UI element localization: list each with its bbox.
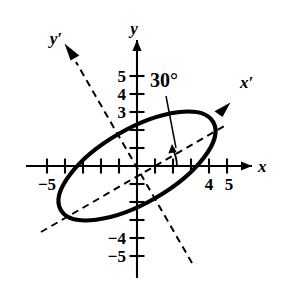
figure-canvas: x y x′ y′ 30° 5 4 3 −4 −5 −5 4 5 bbox=[0, 0, 287, 287]
x-prime-arrowhead bbox=[215, 103, 231, 117]
angle-label: 30° bbox=[150, 69, 178, 91]
x-axis-arrowhead bbox=[241, 161, 252, 170]
x-axis-group bbox=[26, 159, 252, 174]
y-prime-arrowhead bbox=[65, 44, 80, 61]
y-tick-label-4: 4 bbox=[118, 85, 127, 104]
angle-annotation-group bbox=[166, 96, 177, 166]
y-axis-arrowhead bbox=[132, 40, 141, 51]
y-tick-label-3: 3 bbox=[118, 103, 127, 122]
y-axis-label: y bbox=[128, 19, 138, 38]
y-tick-label-neg4: −4 bbox=[108, 229, 127, 248]
x-axis-label: x bbox=[257, 157, 267, 176]
y-tick-label-neg5: −5 bbox=[108, 247, 126, 266]
x-tick-label-neg5: −5 bbox=[38, 175, 56, 194]
ellipse-rotation-figure: x y x′ y′ 30° 5 4 3 −4 −5 −5 4 5 bbox=[0, 0, 287, 287]
y-tick-label-5: 5 bbox=[118, 67, 127, 86]
angle-leader-line bbox=[166, 96, 176, 148]
x-tick-label-4: 4 bbox=[205, 175, 214, 194]
y-prime-axis-line bbox=[76, 62, 192, 263]
x-prime-axis-label: x′ bbox=[239, 73, 253, 92]
y-prime-axis-label: y′ bbox=[48, 29, 62, 48]
x-tick-label-5: 5 bbox=[225, 175, 234, 194]
